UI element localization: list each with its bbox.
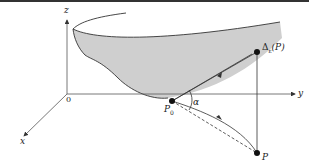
y-axis-label: y: [298, 89, 303, 98]
origin-label: 0: [66, 96, 71, 104]
x-axis: [24, 94, 67, 136]
p-label: P: [262, 153, 268, 162]
diagram-canvas: [0, 0, 309, 167]
z-axis-label: z: [64, 6, 69, 15]
angle-label: α: [193, 98, 199, 107]
x-axis-label: x: [20, 137, 25, 146]
surface-edge-back: [73, 13, 126, 29]
surface: [73, 22, 282, 98]
trajectory: [172, 101, 257, 153]
p0-label: P0: [164, 105, 174, 116]
dashed-line: [172, 101, 257, 153]
point-p: [254, 150, 260, 156]
point-delta: [254, 49, 260, 55]
delta-label: Δε(P): [262, 43, 285, 54]
